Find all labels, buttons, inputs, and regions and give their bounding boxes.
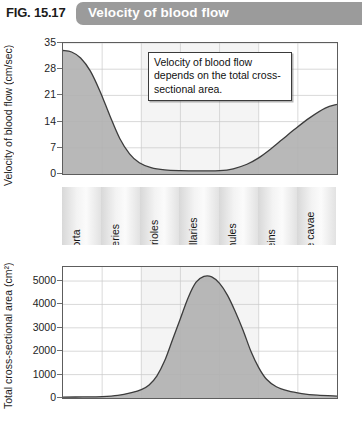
column-band (63, 267, 102, 398)
y-tick-label: 1000 (33, 368, 56, 380)
area-chart-svg (63, 267, 337, 398)
velocity-y-axis-title: Velocity of blood flow (cm/sec) (2, 40, 14, 190)
vessel-category-label: Aorta (70, 229, 82, 245)
y-tick-label: 0 (50, 167, 56, 179)
vessel-category-column: Capillaries (179, 187, 219, 245)
vessel-category-label: Venae cavae (304, 212, 316, 245)
vessel-category-column: Venae cavae (297, 187, 336, 245)
area-plot-area (62, 266, 338, 399)
vessel-category-label: Arterioles (148, 220, 160, 245)
column-band (298, 267, 337, 398)
vessel-category-strip: AortaArteriesArteriolesCapillariesVenule… (62, 187, 336, 245)
y-tick-label: 7 (50, 141, 56, 153)
y-tick-label: 2000 (33, 344, 56, 356)
velocity-y-tick-labels: 0714212835 (26, 42, 56, 173)
area-y-axis-title: Total cross-sectional area (cm²) (2, 253, 14, 418)
figure-title: Velocity of blood flow (88, 5, 229, 20)
area-y-tick-labels: 010002000300040005000 (26, 266, 56, 397)
column-band (102, 267, 141, 398)
vessel-category-label: Capillaries (187, 217, 199, 245)
vessel-category-label: Veins (265, 229, 277, 245)
figure-number: FIG. 15.17 (6, 5, 65, 20)
y-tick-label: 3000 (33, 321, 56, 333)
y-tick-label: 14 (44, 115, 56, 127)
y-tick-label: 4000 (33, 297, 56, 309)
vessel-category-column: Aorta (62, 187, 102, 245)
vessel-category-column: Venules (219, 187, 259, 245)
figure-title-banner: Velocity of blood flow (76, 2, 362, 25)
vessel-category-column: Veins (258, 187, 298, 245)
y-tick-label: 0 (50, 391, 56, 403)
figure-body: Velocity of blood flow (cm/sec) 07142128… (0, 28, 362, 421)
annotation-callout: Velocity of blood flow depends on the to… (148, 52, 292, 101)
vessel-category-column: Arteries (101, 187, 141, 245)
y-tick-label: 5000 (33, 274, 56, 286)
y-tick-label: 28 (44, 62, 56, 74)
vessel-category-label: Venules (226, 223, 238, 245)
y-tick-label: 35 (44, 36, 56, 48)
vessel-category-label: Arteries (109, 224, 121, 245)
y-tick-label: 21 (44, 88, 56, 100)
vessel-category-column: Arterioles (140, 187, 180, 245)
figure-header: FIG. 15.17 Velocity of blood flow (0, 0, 362, 28)
